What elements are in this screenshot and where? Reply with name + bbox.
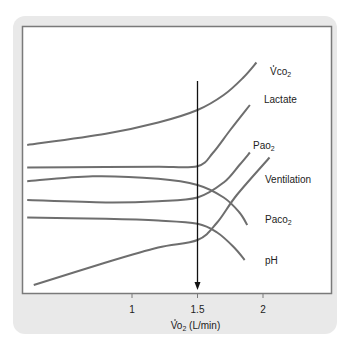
series-label-lactate: Lactate [264, 94, 297, 105]
series-label-main: Pao [253, 140, 271, 151]
x-tick-label: 2 [260, 304, 266, 315]
series-label-sub: 2 [287, 71, 291, 78]
x-tick-label: 1 [129, 304, 135, 315]
x-axis-label: Vo2 (L/min) [171, 320, 221, 332]
x-axis-label-rest: (L/min) [186, 320, 220, 331]
x-axis-label-main: Vo [171, 320, 183, 331]
dot-accent [273, 65, 275, 67]
series-label-paco2: Paco2 [265, 214, 292, 226]
series-label-main: pH [265, 255, 278, 266]
series-label-ph: pH [265, 255, 278, 266]
series-label-sub: 2 [271, 145, 275, 152]
x-tick-label: 1.5 [191, 304, 205, 315]
x-label-dot-accent [174, 319, 176, 321]
series-label-sub: 2 [288, 219, 292, 226]
series-label-main: Ventilation [265, 174, 311, 185]
chart: 11.52 Vco2LactatePaco2Pao2pHVentilation … [0, 0, 348, 351]
series-label-main: Paco [265, 214, 288, 225]
x-axis-ticks: 11.52 [129, 294, 266, 315]
series-label-main: Lactate [264, 94, 297, 105]
series-label-ventilation: Ventilation [265, 174, 311, 185]
series-label-main: Vco [270, 66, 288, 77]
